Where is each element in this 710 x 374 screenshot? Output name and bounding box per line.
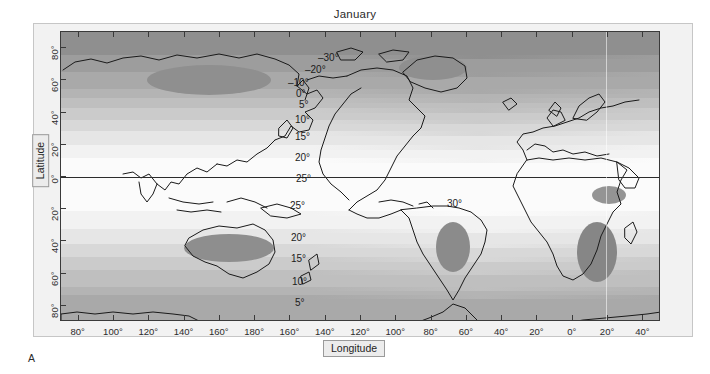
x-axis-tick	[184, 315, 185, 321]
x-tick-label: 140°	[305, 326, 345, 337]
x-axis-tick	[148, 31, 149, 37]
contour-label: 5°	[299, 99, 309, 110]
x-tick-label: 80°	[58, 326, 98, 337]
panel-letter: A	[28, 352, 35, 364]
x-axis-tick	[466, 31, 467, 37]
y-tick-label: 60°	[49, 78, 60, 112]
x-tick-label: 60°	[446, 326, 486, 337]
x-axis-tick	[607, 31, 608, 37]
x-axis-tick	[431, 31, 432, 37]
x-tick-label: 120°	[128, 326, 168, 337]
x-axis-tick	[536, 315, 537, 321]
y-axis-tick	[60, 240, 66, 241]
x-axis-tick	[113, 31, 114, 37]
contour-label: 15°	[291, 253, 306, 264]
y-axis-title: Latitude	[32, 134, 49, 187]
x-axis-tick	[219, 31, 220, 37]
y-tick-label: 0°	[49, 175, 60, 209]
x-tick-label: 20°	[516, 326, 556, 337]
x-axis-tick	[325, 315, 326, 321]
x-axis-tick	[254, 315, 255, 321]
contour-label: 5°	[295, 297, 305, 308]
contour-label: 10°	[292, 276, 307, 287]
contour-label: 25°	[296, 173, 311, 184]
y-tick-label: 20°	[49, 207, 60, 241]
x-axis-tick	[184, 31, 185, 37]
y-axis-tick	[60, 47, 66, 48]
y-tick-label: 80°	[49, 46, 60, 80]
y-axis-tick	[60, 305, 66, 306]
x-tick-label: 80°	[411, 326, 451, 337]
x-axis-tick	[289, 31, 290, 37]
x-axis-tick	[360, 31, 361, 37]
y-axis-tick	[60, 208, 66, 209]
y-tick-label: 40°	[49, 239, 60, 273]
map-plot-area	[60, 31, 660, 321]
x-axis-tick	[148, 315, 149, 321]
x-tick-label: 100°	[375, 326, 415, 337]
x-axis-tick	[572, 315, 573, 321]
x-axis-tick	[572, 31, 573, 37]
x-tick-label: 0°	[552, 326, 592, 337]
x-axis-tick	[254, 31, 255, 37]
contour-label: –10°	[288, 77, 309, 88]
x-axis-tick	[466, 315, 467, 321]
x-axis-tick	[431, 315, 432, 321]
x-tick-label: 160°	[269, 326, 309, 337]
x-axis-tick	[360, 315, 361, 321]
y-axis-tick	[60, 144, 66, 145]
x-axis-tick	[501, 315, 502, 321]
x-axis-tick	[113, 315, 114, 321]
chart-title: January	[0, 8, 710, 20]
x-tick-label: 20°	[587, 326, 627, 337]
contour-label: 30°	[447, 198, 462, 209]
x-axis-tick	[219, 315, 220, 321]
contour-label: 25°	[290, 200, 305, 211]
x-axis-tick	[78, 315, 79, 321]
contour-label: 20°	[291, 232, 306, 243]
x-axis-title: Longitude	[323, 340, 385, 357]
x-axis-tick	[536, 31, 537, 37]
prime-meridian-gridline	[606, 32, 607, 320]
x-tick-label: 140°	[164, 326, 204, 337]
y-axis-tick	[60, 273, 66, 274]
y-axis-tick	[60, 112, 66, 113]
x-axis-tick	[78, 31, 79, 37]
x-axis-tick	[642, 315, 643, 321]
x-axis-tick	[395, 31, 396, 37]
y-axis-tick	[60, 176, 66, 177]
contour-label: –30°	[318, 52, 339, 63]
x-axis-tick	[395, 315, 396, 321]
x-axis-tick	[289, 315, 290, 321]
contour-label: 20°	[295, 152, 310, 163]
y-axis-tick	[60, 79, 66, 80]
x-axis-tick	[501, 31, 502, 37]
x-tick-label: 160°	[199, 326, 239, 337]
x-axis-tick	[607, 315, 608, 321]
y-tick-label: 60°	[49, 271, 60, 305]
contour-label: 15°	[295, 131, 310, 142]
x-axis-tick	[642, 31, 643, 37]
contour-label: –20°	[305, 64, 326, 75]
y-tick-label: 80°	[49, 303, 60, 337]
x-tick-label: 120°	[340, 326, 380, 337]
figure-root: January	[0, 0, 710, 374]
x-tick-label: 40°	[481, 326, 521, 337]
x-tick-label: 100°	[93, 326, 133, 337]
equator-line	[61, 177, 659, 178]
contour-label: 0°	[296, 88, 306, 99]
x-axis-tick	[325, 31, 326, 37]
x-tick-label: 40°	[622, 326, 662, 337]
y-tick-label: 40°	[49, 110, 60, 144]
contour-label: 10°	[295, 114, 310, 125]
x-tick-label: 180°	[234, 326, 274, 337]
y-tick-label: 20°	[49, 142, 60, 176]
